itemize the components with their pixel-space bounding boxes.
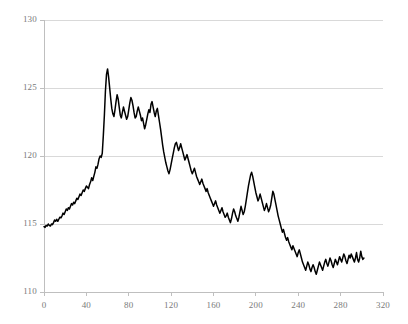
gridlines: [44, 20, 383, 224]
x-axis-label-120: 120: [151, 300, 191, 310]
y-axis-label-115: 115: [8, 218, 37, 228]
line-chart: [0, 0, 408, 324]
x-axis-label-160: 160: [194, 300, 234, 310]
x-axis-label-240: 240: [278, 300, 318, 310]
y-axis-label-125: 125: [8, 82, 37, 92]
x-axis-label-0: 0: [24, 300, 64, 310]
y-axis-label-110: 110: [8, 286, 37, 296]
x-axis-label-40: 40: [66, 300, 106, 310]
axis-ticks: [40, 20, 383, 296]
series-line-1: [44, 69, 364, 274]
x-axis-label-280: 280: [321, 300, 361, 310]
y-axis-label-130: 130: [8, 14, 37, 24]
x-axis-label-80: 80: [109, 300, 149, 310]
y-axis-label-120: 120: [8, 150, 37, 160]
chart-container: 110115120125130 04080120160200240280320: [0, 0, 408, 324]
data-series-line: [44, 69, 364, 274]
x-axis-label-320: 320: [363, 300, 403, 310]
x-axis-label-200: 200: [236, 300, 276, 310]
